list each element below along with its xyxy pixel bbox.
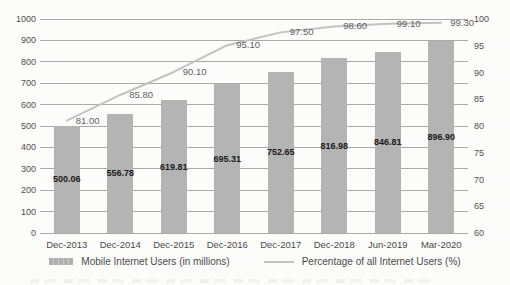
x-axis-tick-label: Mar-2020 [415, 239, 469, 250]
y-axis-tick-left: 300 [4, 164, 36, 174]
gridline [40, 190, 468, 191]
y-axis-tick-right: 60 [474, 228, 506, 238]
gridline [40, 211, 468, 212]
y-axis-tick-left: 700 [4, 78, 36, 88]
gridline [40, 233, 468, 234]
legend-label-bars: Mobile Internet Users (in millions) [81, 256, 229, 267]
y-axis-tick-left: 0 [4, 228, 36, 238]
y-axis-tick-right: 65 [474, 201, 506, 211]
bar-value-label: 816.98 [310, 141, 358, 151]
line-point-label: 97.50 [290, 27, 314, 37]
line-point-label: 85.80 [129, 90, 153, 100]
bar-series-swatch-icon [49, 258, 73, 265]
bar-value-label: 619.81 [150, 162, 198, 172]
y-axis-tick-left: 100 [4, 207, 36, 217]
gridline [40, 83, 468, 84]
plot-area: 1000900800700600500400300200100010095908… [0, 0, 510, 285]
y-axis-tick-right: 90 [474, 68, 506, 78]
bar-value-label: 500.06 [43, 174, 91, 184]
x-axis-tick-label: Dec-2013 [40, 239, 94, 250]
x-axis-tick-label: Dec-2015 [147, 239, 201, 250]
x-axis-tick-label: Dec-2018 [308, 239, 362, 250]
gridline [40, 61, 468, 62]
line-point-label: 99.30 [450, 18, 474, 28]
x-axis-tick-label: Jun-2019 [361, 239, 415, 250]
y-axis-tick-left: 1000 [4, 14, 36, 24]
line-point-label: 90.10 [183, 67, 207, 77]
legend-item-line: Percentage of all Internet Users (%) [264, 256, 461, 267]
legend-item-bars: Mobile Internet Users (in millions) [49, 256, 229, 267]
chart-legend: Mobile Internet Users (in millions) Perc… [0, 256, 510, 267]
y-axis-tick-right: 75 [474, 148, 506, 158]
y-axis-tick-right: 85 [474, 94, 506, 104]
y-axis-tick-right: 95 [474, 41, 506, 51]
x-axis-tick-label: Dec-2014 [94, 239, 148, 250]
bar-value-label: 846.81 [364, 137, 412, 147]
y-axis-tick-left: 400 [4, 142, 36, 152]
y-axis-tick-left: 800 [4, 57, 36, 67]
line-point-label: 99.10 [397, 19, 421, 29]
gridline [40, 126, 468, 127]
cropped-caption-artifact [30, 279, 438, 283]
line-point-label: 81.00 [76, 116, 100, 126]
y-axis-tick-right: 70 [474, 175, 506, 185]
line-point-label: 98.60 [343, 21, 367, 31]
x-axis-tick-label: Dec-2017 [254, 239, 308, 250]
bar-value-label: 556.78 [96, 168, 144, 178]
y-axis-tick-left: 600 [4, 100, 36, 110]
x-axis-tick-label: Dec-2016 [201, 239, 255, 250]
legend-label-line: Percentage of all Internet Users (%) [302, 256, 461, 267]
chart-figure: 1000900800700600500400300200100010095908… [0, 0, 510, 285]
y-axis-tick-left: 500 [4, 121, 36, 131]
y-axis-tick-left: 900 [4, 35, 36, 45]
bar-value-label: 896.90 [417, 132, 465, 142]
line-point-label: 95.10 [236, 40, 260, 50]
gridline [40, 104, 468, 105]
y-axis-tick-right: 80 [474, 121, 506, 131]
y-axis-tick-left: 200 [4, 185, 36, 195]
y-axis-tick-right: 100 [474, 14, 506, 24]
line-series-swatch-icon [264, 261, 294, 263]
bar-value-label: 695.31 [203, 154, 251, 164]
bar-value-label: 752.65 [257, 147, 305, 157]
